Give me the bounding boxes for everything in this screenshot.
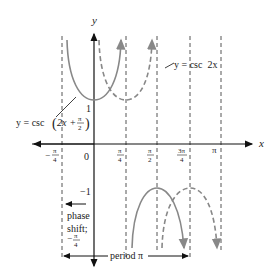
tick-pi-4: π 4 xyxy=(117,147,124,164)
svg-text:π: π xyxy=(118,147,122,155)
svg-text:4: 4 xyxy=(118,156,122,164)
period-annotation: period π xyxy=(64,250,188,261)
svg-text:2x: 2x xyxy=(57,117,67,128)
svg-text:π: π xyxy=(148,147,152,155)
tick-neg-pi-4: − π 4 xyxy=(45,147,59,164)
svg-text:y = csc: y = csc xyxy=(16,117,45,128)
svg-text:2: 2 xyxy=(78,124,82,132)
svg-text:4: 4 xyxy=(180,156,184,164)
solid-branch-down xyxy=(132,188,184,248)
svg-text:3π: 3π xyxy=(178,147,186,155)
tick-3pi-4: 3π 4 xyxy=(177,147,187,164)
x-axis-label: x xyxy=(258,137,264,149)
svg-text:π: π xyxy=(78,115,82,123)
dashed-branch-up xyxy=(99,40,152,100)
y-axis-label: y xyxy=(91,14,97,26)
svg-text:2: 2 xyxy=(148,156,152,164)
label-shifted: y = csc ( 2x + π 2 ) xyxy=(16,115,90,132)
tick-pi: π xyxy=(212,145,217,155)
svg-text:π: π xyxy=(53,147,57,155)
tick-0: 0 xyxy=(84,151,89,162)
csc-graph: y x 0 1 −1 − π 4 π 4 π 2 3π 4 π y = csc … xyxy=(0,0,278,275)
phase-shift-annotation: phase shift; − π 4 xyxy=(66,204,90,249)
svg-text:+: + xyxy=(70,117,76,128)
svg-text:): ) xyxy=(85,116,90,132)
svg-text:phase: phase xyxy=(67,210,90,221)
tick-1: 1 xyxy=(86,103,91,114)
tick-pi-2: π 2 xyxy=(147,147,154,164)
tick-neg1: −1 xyxy=(80,186,91,197)
leader-base xyxy=(165,63,174,68)
svg-text:4: 4 xyxy=(74,241,78,249)
svg-text:−: − xyxy=(67,233,72,243)
svg-text:−: − xyxy=(45,150,50,160)
svg-text:4: 4 xyxy=(53,156,57,164)
leader-shifted xyxy=(56,97,76,117)
svg-text:π: π xyxy=(74,232,78,240)
label-base: y = csc 2x xyxy=(174,59,217,70)
svg-text:period π: period π xyxy=(110,250,143,261)
